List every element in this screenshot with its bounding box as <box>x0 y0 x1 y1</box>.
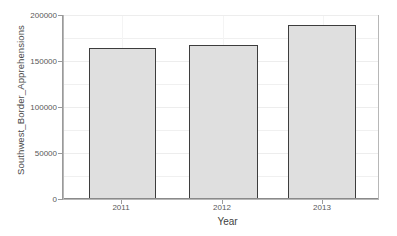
x-axis-tick-label: 2013 <box>292 203 352 212</box>
plot-panel <box>63 15 379 200</box>
y-axis-tick-label: 50000 <box>0 149 57 158</box>
y-axis-tick-150000 <box>58 61 62 62</box>
y-axis-tick-label: 100000 <box>0 103 57 112</box>
y-axis-tick-label: 150000 <box>0 57 57 66</box>
bar-chart-figure: Southwest_Border_Apprehensions 200000 15… <box>0 0 397 236</box>
y-axis-tick-50000 <box>58 153 62 154</box>
x-axis-title: Year <box>217 216 237 227</box>
bar-2012 <box>189 45 258 199</box>
y-axis-tick-0 <box>58 199 62 200</box>
x-axis-tick-label: 2011 <box>91 203 151 212</box>
y-axis-tick-200000 <box>58 15 62 16</box>
bar-2011 <box>89 48 156 200</box>
y-axis-tick-100000 <box>58 107 62 108</box>
gridline-200000 <box>64 15 378 16</box>
x-axis-title-wrapper: Year <box>0 216 397 227</box>
y-axis-title: Southwest_Border_Apprehensions <box>14 0 28 200</box>
y-axis-tick-label: 200000 <box>0 11 57 20</box>
x-axis-tick-label: 2012 <box>192 203 252 212</box>
bar-2013 <box>288 25 356 199</box>
y-axis-tick-label: 0 <box>0 195 57 204</box>
x-axis-baseline <box>64 198 378 199</box>
